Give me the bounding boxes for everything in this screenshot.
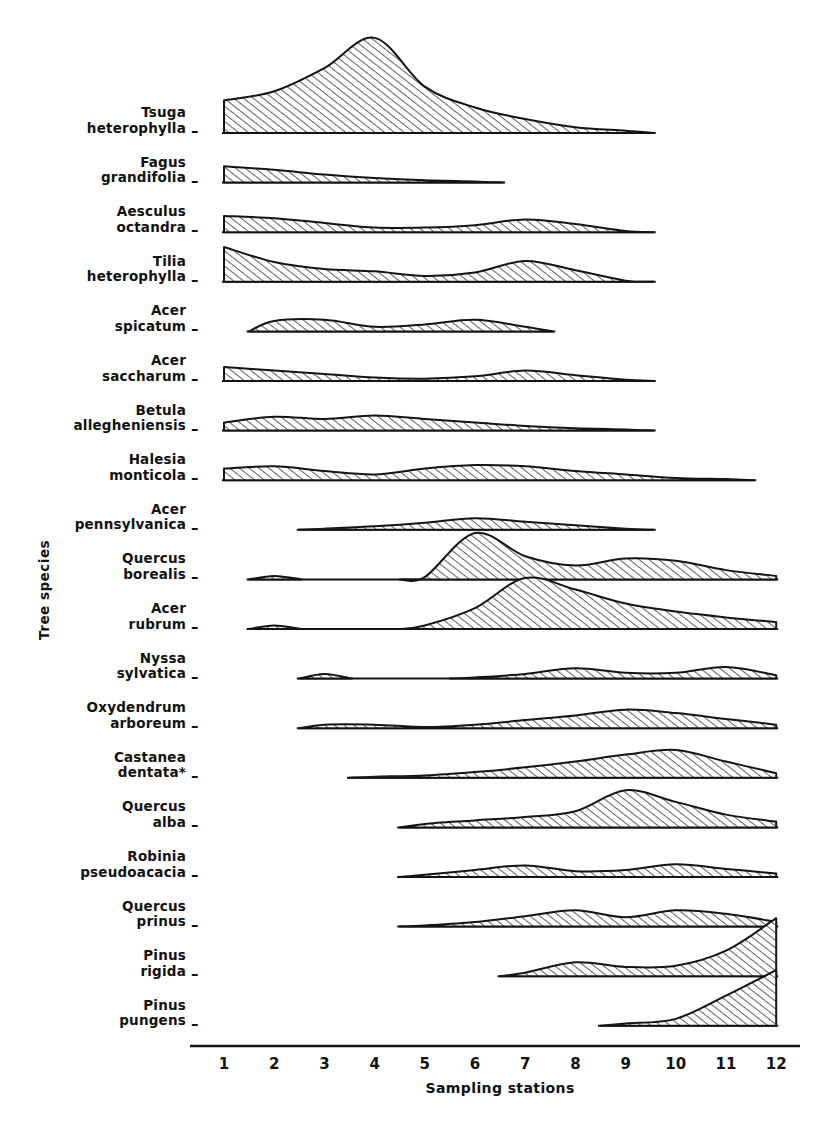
species-genus: Tilia xyxy=(153,253,186,269)
species-name-label: Fagusgrandifolia xyxy=(26,155,186,186)
species-profile-row xyxy=(297,667,778,679)
kite-diagram-figure: TsugaheterophyllaFagusgrandifoliaAesculu… xyxy=(0,0,830,1124)
species-profile-row xyxy=(598,970,778,1026)
species-epithet: monticola xyxy=(109,467,186,483)
row-tick-mark: – xyxy=(191,124,199,139)
species-abundance-area xyxy=(299,710,776,729)
species-profile-row xyxy=(222,216,656,232)
x-axis-tick-label: 10 xyxy=(664,1055,688,1073)
x-axis-tick-label: 11 xyxy=(714,1055,738,1073)
row-tick-mark: – xyxy=(191,273,199,288)
species-epithet: sylvatica xyxy=(117,665,186,681)
species-abundance-area xyxy=(400,864,777,877)
species-name-label: Pinusrigida xyxy=(26,948,186,979)
x-axis-tick-label: 3 xyxy=(312,1055,336,1073)
species-profile-row xyxy=(222,465,756,480)
row-tick-mark: – xyxy=(191,322,199,337)
y-axis-title: Tree species xyxy=(36,540,52,640)
x-axis-tick-label: 2 xyxy=(262,1055,286,1073)
species-profile-row xyxy=(397,790,778,827)
species-genus: Quercus xyxy=(122,898,186,914)
species-abundance-area xyxy=(224,216,653,232)
species-profile-row xyxy=(397,910,778,926)
species-name-label: Acerpennsylvanica xyxy=(26,502,186,533)
species-profile-row xyxy=(222,416,656,431)
x-axis-tick-label: 9 xyxy=(614,1055,638,1073)
species-genus: Acer xyxy=(151,302,186,318)
x-axis-tick-label: 6 xyxy=(463,1055,487,1073)
species-genus: Halesia xyxy=(129,451,186,467)
species-genus: Acer xyxy=(151,352,186,368)
species-name-label: Acerspicatum xyxy=(26,303,186,334)
row-tick-mark: – xyxy=(191,174,199,189)
species-epithet: grandifolia xyxy=(101,169,186,185)
species-epithet: rubrum xyxy=(129,616,186,632)
species-genus: Castanea xyxy=(114,749,186,765)
species-epithet: arboreum xyxy=(110,715,186,731)
row-tick-mark: – xyxy=(191,769,199,784)
species-name-label: Halesiamonticola xyxy=(26,452,186,483)
species-genus: Fagus xyxy=(140,154,186,170)
species-abundance-area xyxy=(400,790,777,827)
x-axis-tick-label: 8 xyxy=(563,1055,587,1073)
row-tick-mark: – xyxy=(191,719,199,734)
species-name-label: Oxydendrumarboreum xyxy=(26,700,186,731)
species-profile-row xyxy=(222,38,656,133)
species-profile-row xyxy=(397,864,778,877)
x-axis-tick-label: 7 xyxy=(513,1055,537,1073)
species-epithet: spicatum xyxy=(115,318,186,334)
species-abundance-area xyxy=(400,533,777,582)
species-epithet: alba xyxy=(153,814,186,830)
x-axis-tick-label: 4 xyxy=(363,1055,387,1073)
species-profile-row xyxy=(247,533,779,582)
row-tick-mark: – xyxy=(191,868,199,883)
row-tick-mark: – xyxy=(191,521,199,536)
species-epithet: allegheniensis xyxy=(74,417,186,433)
row-tick-mark: – xyxy=(191,570,199,585)
row-tick-mark: – xyxy=(191,223,199,238)
species-profile-row xyxy=(247,577,779,629)
species-genus: Oxydendrum xyxy=(87,699,186,715)
species-genus: Acer xyxy=(151,501,186,517)
species-abundance-area xyxy=(601,970,777,1026)
species-epithet: heterophylla xyxy=(87,120,186,136)
species-epithet: saccharum xyxy=(102,368,186,384)
row-tick-mark: – xyxy=(191,670,199,685)
species-epithet: heterophylla xyxy=(87,268,186,284)
species-epithet: rigida xyxy=(140,963,186,979)
species-genus: Robinia xyxy=(127,848,186,864)
row-tick-mark: – xyxy=(191,918,199,933)
species-abundance-area xyxy=(224,367,653,381)
species-name-label: Quercusalba xyxy=(26,799,186,830)
species-genus: Quercus xyxy=(122,798,186,814)
row-tick-mark: – xyxy=(191,471,199,486)
species-genus: Aesculus xyxy=(117,203,186,219)
species-abundance-area xyxy=(249,576,302,579)
row-tick-mark: – xyxy=(191,967,199,982)
species-abundance-area xyxy=(224,247,653,282)
species-name-label: Nyssasylvatica xyxy=(26,651,186,682)
species-abundance-area xyxy=(224,166,503,182)
species-profile-row xyxy=(222,367,656,381)
species-abundance-area xyxy=(350,750,777,778)
species-name-label: Robiniapseudoacacia xyxy=(26,849,186,880)
species-abundance-area xyxy=(400,910,777,926)
species-abundance-area xyxy=(249,319,553,331)
species-name-label: Aesculusoctandra xyxy=(26,204,186,235)
species-epithet: pseudoacacia xyxy=(80,864,186,880)
species-genus: Betula xyxy=(136,402,186,418)
species-epithet: pennsylvanica xyxy=(75,516,186,532)
species-epithet: octandra xyxy=(117,219,186,235)
species-name-label: Betulaallegheniensis xyxy=(26,403,186,434)
species-profile-row xyxy=(247,319,556,331)
species-abundance-area xyxy=(224,465,754,480)
x-axis-tick-label: 1 xyxy=(212,1055,236,1073)
row-tick-mark: – xyxy=(191,818,199,833)
species-profile-row xyxy=(222,247,656,282)
x-axis-tick-label: 12 xyxy=(764,1055,788,1073)
species-genus: Tsuga xyxy=(141,104,186,120)
row-tick-mark: – xyxy=(191,1017,199,1032)
row-tick-mark: – xyxy=(191,372,199,387)
x-axis-tick-label: 5 xyxy=(413,1055,437,1073)
species-name-label: Quercusprinus xyxy=(26,899,186,930)
